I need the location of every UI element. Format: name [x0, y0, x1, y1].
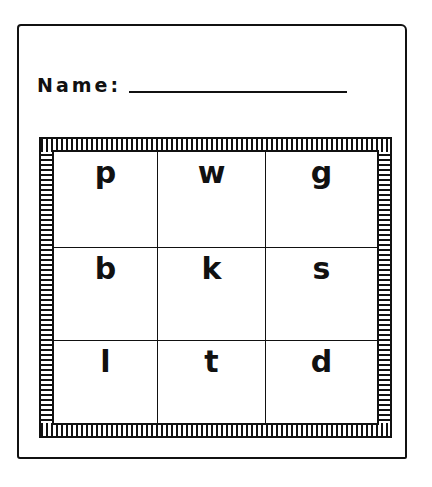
- grid-letter: b: [95, 254, 116, 340]
- grid-letter: l: [100, 347, 110, 423]
- name-label: Name:: [37, 74, 121, 96]
- grid-cell: w: [158, 152, 266, 248]
- name-row: Name:: [37, 74, 347, 96]
- decorative-hatched-border: p w g b k s l t d: [39, 137, 392, 438]
- grid-cell: g: [266, 152, 377, 248]
- grid-letter: g: [311, 158, 332, 247]
- grid-cell: k: [158, 248, 266, 341]
- grid-letter: d: [311, 347, 332, 423]
- grid-cell: s: [266, 248, 377, 341]
- grid-letter: k: [202, 254, 222, 340]
- grid-letter: p: [95, 158, 116, 247]
- letter-grid: p w g b k s l t d: [52, 150, 379, 425]
- grid-cell: p: [54, 152, 158, 248]
- grid-letter: t: [204, 347, 218, 423]
- grid-cell: t: [158, 341, 266, 423]
- grid-letter: w: [198, 158, 226, 247]
- grid-letter: s: [313, 254, 331, 340]
- grid-cell: b: [54, 248, 158, 341]
- name-field[interactable]: [129, 91, 347, 93]
- grid-cell: l: [54, 341, 158, 423]
- grid-cell: d: [266, 341, 377, 423]
